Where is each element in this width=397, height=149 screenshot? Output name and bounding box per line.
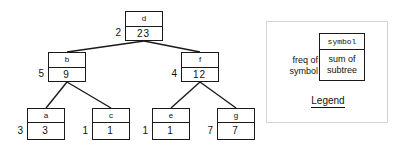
node-b-freq: 5 (28, 69, 44, 79)
edge-f-g (200, 82, 236, 108)
node-g-sum: 7 (218, 123, 254, 139)
edge-d-f (144, 41, 200, 52)
tree-node-a: a 3 (27, 108, 65, 140)
node-f-symbol: f (182, 53, 218, 68)
node-a-symbol: a (28, 109, 64, 123)
tree-node-e: e 1 (152, 108, 190, 140)
node-g-freq: 7 (197, 126, 213, 136)
legend-caption: Legend (267, 96, 389, 106)
legend-panel: freq of symbol symbol sum of subtree Leg… (266, 21, 388, 123)
edge-b-c (67, 82, 111, 108)
legend-caption-text: Legend (311, 95, 344, 108)
tree-node-g: g 7 (217, 108, 255, 140)
tree-node-f: f 12 (181, 52, 219, 82)
edge-b-a (46, 82, 67, 108)
tree-node-b: b 9 (48, 52, 86, 82)
edge-f-e (171, 82, 200, 108)
node-a-freq: 3 (7, 126, 23, 136)
legend-sum-line2: subtree (327, 65, 357, 76)
node-e-freq: 1 (132, 126, 148, 136)
tree-node-c: c 1 (92, 108, 130, 140)
node-g-symbol: g (218, 109, 254, 123)
node-c-symbol: c (93, 109, 129, 123)
edge-d-b (67, 41, 144, 52)
node-a-sum: 3 (28, 123, 64, 139)
node-e-sum: 1 (153, 123, 189, 139)
legend-node-example: symbol sum of subtree (319, 33, 365, 81)
diagram-canvas: d 23 2 b 9 5 f 12 4 a 3 3 c 1 1 e 1 1 g … (0, 0, 397, 149)
node-c-sum: 1 (93, 123, 129, 139)
node-f-sum: 12 (182, 68, 218, 81)
node-b-sum: 9 (49, 68, 85, 81)
node-b-symbol: b (49, 53, 85, 68)
node-f-freq: 4 (161, 69, 177, 79)
tree-node-d: d 23 (125, 11, 163, 41)
node-d-freq: 2 (105, 28, 121, 38)
legend-freq-line1: freq of (269, 55, 318, 66)
node-e-symbol: e (153, 109, 189, 123)
legend-sum-line1: sum of (328, 54, 355, 65)
node-d-sum: 23 (126, 27, 162, 40)
node-c-freq: 1 (72, 126, 88, 136)
legend-freq-label: freq of symbol (269, 55, 318, 78)
legend-sum-cell: sum of subtree (320, 50, 364, 80)
node-d-symbol: d (126, 12, 162, 27)
legend-freq-line2: symbol (269, 66, 318, 77)
legend-symbol-cell: symbol (320, 34, 364, 50)
